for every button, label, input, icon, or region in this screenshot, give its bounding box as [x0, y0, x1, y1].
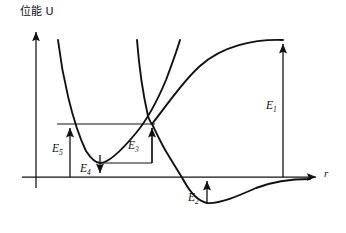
potential-energy-diagram: 位能 U r E1 E2 E3 E4 E5: [0, 0, 346, 233]
e4-letter: E: [80, 162, 87, 174]
e2-label: E2: [188, 192, 199, 206]
e3-letter: E: [128, 139, 135, 151]
curve-steep-descender: [137, 40, 184, 181]
e5-letter: E: [52, 142, 59, 154]
diagram-canvas: [0, 0, 346, 233]
e1-label: E1: [266, 100, 277, 114]
curve-rising-plateau: [152, 40, 283, 124]
e5-label: E5: [52, 143, 63, 157]
e4-label: E4: [80, 163, 91, 177]
e4-subscript: 4: [87, 168, 91, 177]
e2-subscript: 2: [195, 197, 199, 206]
e5-subscript: 5: [59, 148, 63, 157]
e1-letter: E: [266, 99, 273, 111]
curve-lower-well: [184, 179, 310, 203]
e1-subscript: 1: [273, 105, 277, 114]
x-axis-label: r: [324, 168, 328, 179]
e2-letter: E: [188, 191, 195, 203]
y-axis-label: 位能 U: [20, 6, 54, 17]
e3-subscript: 3: [135, 145, 139, 154]
e3-label: E3: [128, 140, 139, 154]
